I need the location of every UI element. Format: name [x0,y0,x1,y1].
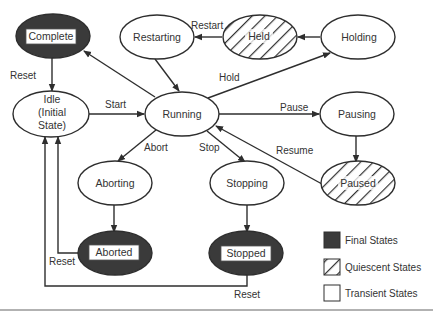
label-start: Start [105,99,126,110]
state-aborting: Aborting [78,161,152,205]
state-holding: Holding [321,15,395,59]
edge-aborted-idle [58,137,78,253]
edge-restarting-running [155,59,179,91]
label-reset-aborted: Reset [49,256,75,267]
transient-swatch-icon [324,285,340,301]
state-label: Held [248,30,270,42]
label-abort: Abort [144,142,168,153]
legend-label: Transient States [345,288,417,299]
state-label: Pausing [338,108,376,120]
state-label: Running [162,108,201,120]
label-reset-stopped: Reset [234,289,260,300]
label-pause: Pause [280,102,309,113]
label-resume: Resume [276,145,314,156]
label-hold: Hold [219,72,240,83]
state-label-line-1: Idle [44,93,61,105]
state-paused: Paused [321,161,395,205]
state-label: Paused [340,177,376,189]
state-label: Stopped [226,247,265,259]
state-running: Running [145,92,219,136]
state-stopping: Stopping [210,161,284,205]
state-label: Restarting [133,31,181,43]
label-stop: Stop [199,142,220,153]
state-pausing: Pausing [320,92,394,136]
legend-label: Quiescent States [345,262,421,273]
state-label: Holding [341,31,377,43]
legend-item-final: Final States [324,232,398,248]
state-stopped: Stopped [209,231,283,275]
state-held: Held [223,15,297,59]
state-label-line-3: State) [38,119,66,131]
state-complete: Complete [16,14,90,58]
state-label-line-2: (Initial [38,106,66,118]
legend-item-quiescent: Quiescent States [324,259,421,275]
legend-item-transient: Transient States [324,285,417,301]
state-label: Complete [29,30,74,42]
legend-label: Final States [345,235,398,246]
state-idle: Idle (Initial State) [13,91,89,137]
state-label: Stopping [226,177,268,189]
state-aborted: Aborted [78,231,152,275]
label-restart: Restart [191,20,223,31]
state-diagram: Reset Start Restart Hold Pause Resume Ab… [0,0,433,316]
quiescent-swatch-icon [324,259,340,275]
state-label: Aborting [95,177,134,189]
legend: Final States Quiescent States Transient … [324,232,421,301]
label-reset-complete: Reset [10,70,36,81]
final-swatch-icon [324,232,340,248]
state-restarting: Restarting [120,15,194,59]
state-label: Aborted [96,246,133,258]
